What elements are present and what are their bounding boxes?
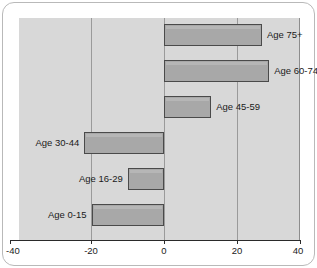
- x-tick-label-zero: 0: [161, 245, 166, 256]
- x-tick-label-plus20: 20: [232, 245, 243, 256]
- x-tick-zero: [164, 240, 165, 244]
- bar-highlight: [166, 62, 267, 65]
- bar: [92, 204, 165, 226]
- x-tick-minus20: [91, 240, 92, 244]
- bar-label: Age 75+: [262, 24, 303, 46]
- bar: [164, 24, 262, 46]
- bar: [128, 168, 164, 190]
- bar-label: Age 16-29: [79, 168, 128, 190]
- bar-label: Age 45-59: [211, 96, 260, 118]
- bar: [84, 132, 164, 154]
- bar-highlight: [130, 170, 162, 173]
- bar-highlight: [94, 206, 163, 209]
- bar-label: Age 30-44: [35, 132, 84, 154]
- bar-highlight: [166, 98, 209, 101]
- gridline-zero: [164, 18, 165, 240]
- bar-highlight: [86, 134, 162, 137]
- gridline-plus20: [237, 18, 238, 240]
- x-tick-label-minus40: -40: [6, 245, 20, 256]
- x-tick-minus40: [10, 240, 11, 244]
- x-tick-plus20: [237, 240, 238, 244]
- x-axis-line: [10, 240, 301, 241]
- bar: [164, 96, 211, 118]
- bar-highlight: [166, 26, 260, 29]
- x-tick-plus40: [300, 240, 301, 244]
- bar-label: Age 60-74: [269, 60, 317, 82]
- bar: [164, 60, 269, 82]
- x-tick-label-minus20: -20: [84, 245, 98, 256]
- bar-label: Age 0-15: [48, 204, 92, 226]
- x-tick-label-plus40: 40: [293, 245, 304, 256]
- chart-figure: Age 75+Age 60-74Age 45-59Age 30-44Age 16…: [0, 0, 317, 268]
